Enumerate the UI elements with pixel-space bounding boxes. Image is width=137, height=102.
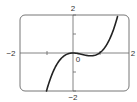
x-min-label: −2 [6,49,16,58]
y-max-label: 2 [71,4,76,13]
x-max-label: 2 [131,49,136,58]
origin-label: 0 [76,55,81,64]
function-curve [47,17,118,91]
graph: 2 −2 −2 2 0 [0,0,137,102]
y-min-label: −2 [68,93,78,102]
